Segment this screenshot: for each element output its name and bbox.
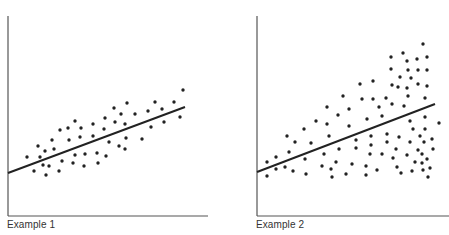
data-point (302, 127, 305, 130)
data-point (426, 175, 429, 178)
chart-example-1 (0, 0, 449, 235)
data-point (385, 140, 388, 143)
data-point (265, 160, 268, 163)
data-point (337, 147, 340, 150)
data-point (119, 112, 122, 115)
data-point (79, 126, 82, 129)
data-point (66, 126, 69, 129)
data-point (354, 138, 357, 141)
data-point (420, 161, 423, 164)
data-point (428, 166, 431, 169)
data-point (391, 156, 394, 159)
data-point (375, 168, 378, 171)
data-point (153, 100, 156, 103)
data-point (283, 165, 286, 168)
data-point (67, 138, 70, 141)
data-point (336, 113, 339, 116)
data-point (371, 79, 374, 82)
data-point (389, 55, 392, 58)
data-point (73, 153, 76, 156)
data-point (274, 167, 277, 170)
data-point (405, 153, 408, 156)
scatter-plots-canvas (0, 0, 449, 235)
data-point (423, 96, 426, 99)
data-point (125, 101, 128, 104)
data-point (421, 168, 424, 171)
data-point (423, 115, 426, 118)
data-point (73, 119, 76, 122)
data-point (364, 164, 367, 167)
data-point (178, 115, 181, 118)
data-point (172, 100, 175, 103)
data-point (117, 144, 120, 147)
data-point (358, 82, 361, 85)
data-point (408, 140, 411, 143)
scatter-chart-2 (257, 16, 449, 216)
data-point (411, 127, 414, 130)
data-point (41, 163, 44, 166)
data-point (293, 140, 296, 143)
data-point (347, 107, 350, 110)
data-point (78, 135, 81, 138)
data-point (431, 147, 434, 150)
data-point (369, 134, 372, 137)
data-point (397, 135, 400, 138)
data-point (410, 169, 413, 172)
data-point (47, 164, 50, 167)
data-point (425, 55, 428, 58)
data-point (327, 134, 330, 137)
data-point (425, 157, 428, 160)
data-point (107, 140, 110, 143)
data-point (364, 173, 367, 176)
data-point (390, 83, 393, 86)
data-point (123, 147, 126, 150)
data-point (394, 147, 397, 150)
data-point (146, 109, 149, 112)
data-point (360, 97, 363, 100)
data-point (314, 119, 317, 122)
data-point (162, 120, 165, 123)
data-point (341, 94, 344, 97)
data-point (385, 132, 388, 135)
data-point (389, 67, 392, 70)
data-point (334, 160, 337, 163)
data-point (82, 164, 85, 167)
regression-line (257, 104, 435, 172)
data-point (423, 127, 426, 130)
data-point (285, 134, 288, 137)
scatter-chart-1 (8, 16, 208, 216)
data-point (303, 157, 306, 160)
data-point (44, 173, 47, 176)
data-point (416, 148, 419, 151)
data-point (38, 155, 41, 158)
data-point (368, 152, 371, 155)
data-point (325, 122, 328, 125)
data-point (408, 119, 411, 122)
data-point (57, 169, 60, 172)
data-point (401, 51, 404, 54)
caption-example-1: Example 1 (7, 219, 55, 230)
data-point (36, 144, 39, 147)
data-point (415, 57, 418, 60)
data-point (422, 140, 425, 143)
data-point (103, 116, 106, 119)
data-point (405, 86, 408, 89)
data-point (350, 162, 353, 165)
data-point (52, 147, 55, 150)
data-point (95, 151, 98, 154)
data-point (405, 59, 408, 62)
data-point (430, 137, 433, 140)
data-point (304, 172, 307, 175)
data-point (371, 97, 374, 100)
data-point (104, 154, 107, 157)
data-point (160, 107, 163, 110)
data-point (369, 143, 372, 146)
data-point (322, 152, 325, 155)
data-point (113, 120, 116, 123)
data-point (425, 68, 428, 71)
data-point (91, 122, 94, 125)
caption-example-2: Example 2 (256, 219, 304, 230)
data-point (420, 152, 423, 155)
data-point (437, 121, 440, 124)
data-point (96, 161, 99, 164)
